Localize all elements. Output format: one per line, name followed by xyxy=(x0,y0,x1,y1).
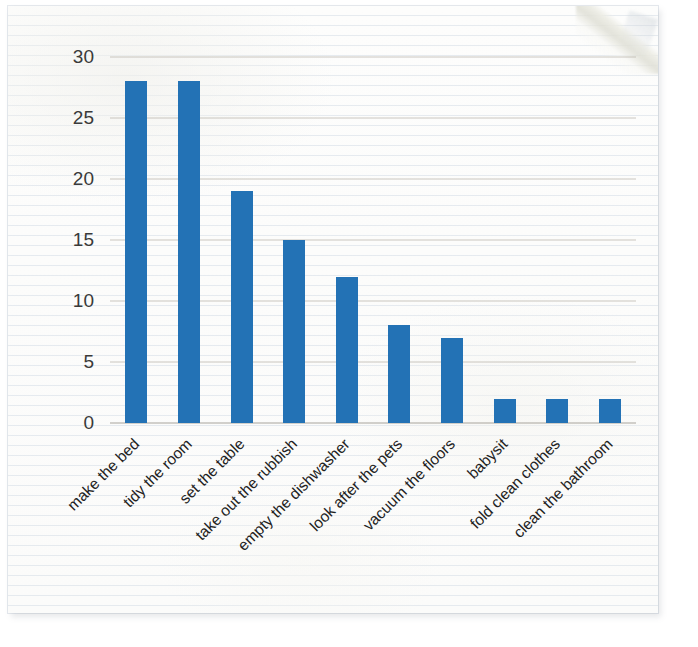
bar xyxy=(336,277,358,423)
bar xyxy=(494,399,516,423)
y-axis-tick-label: 10 xyxy=(73,290,94,311)
x-axis-tick-label: clean the bathroom xyxy=(510,435,616,541)
x-axis-tick-label: fold clean clothes xyxy=(467,435,564,532)
bar xyxy=(178,81,200,423)
y-axis-tick-label: 0 xyxy=(83,412,94,433)
bars-group xyxy=(125,81,620,423)
y-axis-tick-label: 5 xyxy=(83,351,94,372)
y-axis-tick-label: 25 xyxy=(73,107,94,128)
x-axis-tick-label: babysit xyxy=(464,435,511,482)
y-axis-tick-label: 15 xyxy=(73,229,94,250)
bar xyxy=(388,325,410,423)
bar xyxy=(546,399,568,423)
bar xyxy=(231,191,253,423)
y-axis-tick-label: 20 xyxy=(73,168,94,189)
screenshot-root: 051015202530 make the bedtidy the roomse… xyxy=(0,0,698,647)
x-axis-tick-labels: make the bedtidy the roomset the tableta… xyxy=(64,435,616,554)
bar xyxy=(283,240,305,423)
bar xyxy=(441,338,463,423)
x-axis-tick-label: look after the pets xyxy=(306,435,405,534)
bar xyxy=(125,81,147,423)
paper-sheet: 051015202530 make the bedtidy the roomse… xyxy=(8,6,658,613)
bar-chart: 051015202530 make the bedtidy the roomse… xyxy=(8,6,658,613)
y-axis-tick-labels: 051015202530 xyxy=(73,46,94,433)
x-axis-tick-label: vacuum the floors xyxy=(359,435,458,534)
bar xyxy=(599,399,621,423)
x-axis-tick-label: take out the rubbish xyxy=(192,435,300,543)
y-axis-tick-label: 30 xyxy=(73,46,94,67)
